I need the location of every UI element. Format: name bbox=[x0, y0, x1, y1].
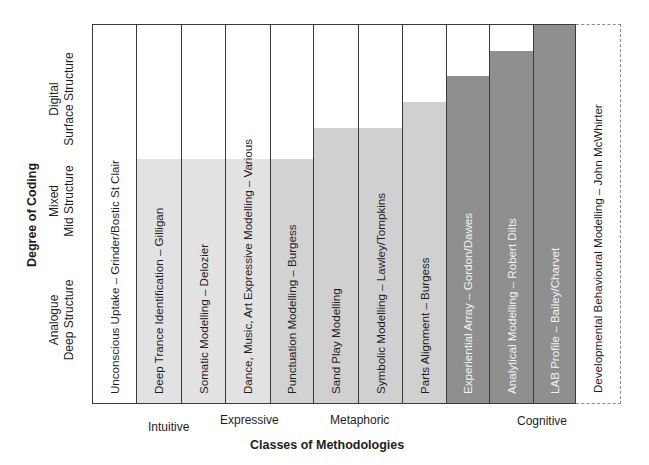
column-symbolic: Symbolic Modelling – Lawley/Tompkins bbox=[358, 24, 402, 404]
column-unconscious-uptake: Unconscious Uptake – Grinder/Bostic St C… bbox=[92, 24, 136, 404]
y-level-digital-line1: Digital bbox=[47, 43, 62, 155]
column-label: Symbolic Modelling – Lawley/Tompkins bbox=[374, 193, 387, 394]
column-sand-play: Sand Play Modelling bbox=[313, 24, 358, 404]
class-label-expressive: Expressive bbox=[220, 413, 279, 427]
column-analytical: Analytical Modelling – Robert Dilts bbox=[489, 24, 533, 404]
column-label: LAB Profile – Bailey/Charvet bbox=[548, 248, 561, 394]
column-label: Punctuation Modelling – Burgess bbox=[285, 224, 298, 394]
column-lab-profile: LAB Profile – Bailey/Charvet bbox=[533, 24, 576, 404]
y-level-mixed-line2: Mid Structure bbox=[62, 151, 77, 251]
column-label: Sand Play Modelling bbox=[329, 288, 342, 394]
column-label: Unconscious Uptake – Grinder/Bostic St C… bbox=[108, 160, 121, 394]
column-label: Dance, Music, Art Expressive Modelling –… bbox=[241, 139, 254, 394]
column-label: Somatic Modelling – Delozier bbox=[197, 244, 210, 394]
x-axis-title: Classes of Methodologies bbox=[250, 438, 404, 452]
y-level-analogue: Analogue Deep Structure bbox=[47, 270, 77, 370]
column-dance-music-art: Dance, Music, Art Expressive Modelling –… bbox=[225, 24, 270, 404]
y-level-analogue-line2: Deep Structure bbox=[62, 270, 77, 370]
y-level-analogue-line1: Analogue bbox=[47, 270, 62, 370]
column-label: Analytical Modelling – Robert Dilts bbox=[505, 218, 518, 394]
y-level-digital: Digital Surface Structure bbox=[47, 43, 77, 155]
y-level-mixed: Mixed Mid Structure bbox=[47, 151, 77, 251]
column-label: Developmental Behavioural Modelling – Jo… bbox=[591, 104, 604, 393]
column-experiential-array: Experiential Array – Gordon/Dawes bbox=[446, 24, 489, 404]
column-parts-alignment: Parts Alignment – Burgess bbox=[402, 24, 446, 404]
column-developmental-behavioural: Developmental Behavioural Modelling – Jo… bbox=[576, 24, 621, 404]
column-somatic: Somatic Modelling – Delozier bbox=[181, 24, 225, 404]
column-label: Parts Alignment – Burgess bbox=[418, 257, 431, 394]
column-label: Deep Trance Identification – Gilligan bbox=[152, 208, 165, 394]
class-label-intuitive: Intuitive bbox=[148, 420, 189, 434]
y-level-digital-line2: Surface Structure bbox=[62, 43, 77, 155]
class-label-cognitive: Cognitive bbox=[517, 414, 567, 428]
column-deep-trance: Deep Trance Identification – Gilligan bbox=[136, 24, 181, 404]
y-axis-title: Degree of Coding bbox=[25, 155, 41, 275]
column-label: Experiential Array – Gordon/Dawes bbox=[461, 213, 474, 394]
class-label-metaphoric: Metaphoric bbox=[330, 413, 389, 427]
y-level-mixed-line1: Mixed bbox=[47, 151, 62, 251]
column-punctuation: Punctuation Modelling – Burgess bbox=[270, 24, 313, 404]
